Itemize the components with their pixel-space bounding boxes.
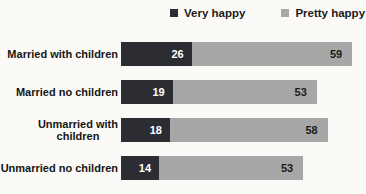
- stacked-bar: 1858: [121, 118, 328, 142]
- bar-segment-pretty-happy: 53: [159, 156, 303, 180]
- stacked-bar: 1953: [121, 80, 317, 104]
- bar-row: Married with children2659: [0, 42, 366, 66]
- bar-segment-very-happy: 14: [121, 156, 159, 180]
- bar-segment-pretty-happy: 59: [192, 42, 352, 66]
- chart-rows: Married with children2659Married no chil…: [0, 42, 366, 180]
- bar-segment-very-happy: 18: [121, 118, 170, 142]
- stacked-bar-chart: Very happyPretty happy Married with chil…: [0, 0, 366, 194]
- category-label: Unmarried no children: [0, 156, 121, 180]
- stacked-bar: 2659: [121, 42, 352, 66]
- category-label: Married with children: [0, 42, 121, 66]
- value-label: 53: [295, 86, 307, 98]
- value-label: 14: [139, 162, 151, 174]
- legend-swatch-icon: [170, 9, 178, 17]
- stacked-bar: 1453: [121, 156, 303, 180]
- value-label: 18: [150, 124, 162, 136]
- chart-legend: Very happyPretty happy: [170, 7, 365, 19]
- category-label: Unmarried withchildren: [0, 118, 121, 142]
- bar-segment-pretty-happy: 53: [173, 80, 317, 104]
- category-label-text: Unmarried no children: [1, 162, 118, 174]
- bar-row: Married no children1953: [0, 80, 366, 104]
- legend-label: Very happy: [184, 7, 245, 19]
- category-label: Married no children: [0, 80, 121, 104]
- category-label-text: Unmarried withchildren: [38, 118, 118, 142]
- legend-item: Pretty happy: [281, 7, 365, 19]
- bar-segment-very-happy: 19: [121, 80, 173, 104]
- bar-segment-pretty-happy: 58: [170, 118, 328, 142]
- legend-item: Very happy: [170, 7, 245, 19]
- bar-row: Unmarried no children1453: [0, 156, 366, 180]
- bar-row: Unmarried withchildren1858: [0, 118, 366, 142]
- legend-swatch-icon: [281, 9, 289, 17]
- category-label-text: Married no children: [16, 86, 118, 98]
- value-label: 58: [305, 124, 317, 136]
- value-label: 59: [330, 48, 342, 60]
- legend-label: Pretty happy: [295, 7, 365, 19]
- category-label-text: Married with children: [7, 48, 118, 60]
- value-label: 19: [152, 86, 164, 98]
- bar-segment-very-happy: 26: [121, 42, 192, 66]
- value-label: 53: [281, 162, 293, 174]
- value-label: 26: [171, 48, 183, 60]
